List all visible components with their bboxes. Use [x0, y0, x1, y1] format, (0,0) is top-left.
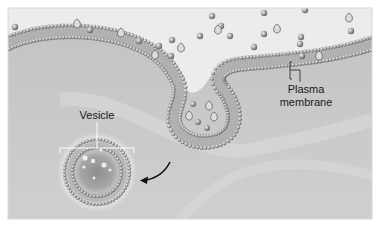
phospholipid-head	[78, 36, 82, 40]
phospholipid-head	[172, 132, 176, 136]
phospholipid-head	[98, 38, 102, 42]
phospholipid-head	[29, 40, 33, 44]
phospholipid-head	[85, 139, 89, 143]
phospholipid-head	[254, 67, 258, 71]
phospholipid-head	[204, 146, 208, 150]
phospholipid-head	[51, 24, 55, 28]
phospholipid-head	[106, 27, 110, 31]
phospholipid-head	[192, 145, 196, 149]
phospholipid-head	[330, 45, 334, 49]
phospholipid-head	[112, 198, 116, 202]
phospholipid-head	[293, 51, 297, 55]
phospholipid-head	[256, 54, 260, 58]
phospholipid-head	[260, 54, 264, 58]
phospholipid-head	[127, 177, 131, 181]
phospholipid-head	[71, 172, 75, 176]
phospholipid-head	[214, 67, 218, 71]
phospholipid-head	[183, 81, 187, 85]
phospholipid-head	[166, 120, 170, 124]
plasma-membrane-label-line2: membrane	[280, 96, 333, 108]
phospholipid-head	[336, 57, 340, 61]
phospholipid-head	[174, 135, 178, 139]
solute-molecule	[297, 41, 303, 47]
phospholipid-head	[211, 72, 215, 76]
phospholipid-head	[117, 42, 121, 46]
phospholipid-head	[118, 160, 122, 164]
vesicle-cargo-molecule	[91, 159, 95, 163]
endocytosis-diagram: Plasma membrane Vesicle	[0, 0, 380, 226]
phospholipid-head	[71, 165, 75, 169]
phospholipid-head	[79, 142, 83, 146]
solute-molecule	[348, 28, 354, 34]
phospholipid-head	[55, 36, 59, 40]
phospholipid-head	[93, 195, 97, 199]
phospholipid-head	[95, 203, 99, 207]
phospholipid-head	[101, 38, 105, 42]
pit-solute-molecule	[190, 101, 196, 107]
phospholipid-head	[247, 67, 251, 71]
phospholipid-head	[68, 35, 72, 39]
phospholipid-head	[283, 52, 287, 56]
phospholipid-head	[33, 27, 37, 31]
phospholipid-head	[88, 138, 92, 142]
phospholipid-head	[82, 24, 86, 28]
phospholipid-head	[238, 122, 242, 126]
phospholipid-head	[235, 98, 239, 102]
phospholipid-head	[350, 41, 354, 45]
phospholipid-head	[211, 82, 215, 86]
droplet-molecule	[118, 28, 125, 37]
phospholipid-head	[251, 67, 255, 71]
phospholipid-head	[169, 101, 173, 105]
pit-solute-molecule	[204, 125, 210, 131]
phospholipid-head	[93, 25, 97, 29]
phospholipid-head	[291, 63, 295, 67]
pit-droplet-molecule	[206, 101, 213, 110]
phospholipid-head	[271, 65, 275, 69]
solute-molecule	[87, 27, 93, 33]
phospholipid-head	[353, 40, 357, 44]
phospholipid-head	[125, 157, 129, 161]
phospholipid-head	[226, 139, 230, 143]
phospholipid-head	[184, 90, 188, 94]
vesicle-cargo-molecule	[101, 162, 106, 167]
phospholipid-head	[363, 50, 367, 54]
phospholipid-head	[303, 50, 307, 54]
phospholipid-head	[217, 64, 221, 68]
phospholipid-head	[236, 56, 240, 60]
phospholipid-head	[127, 163, 131, 167]
phospholipid-head	[177, 138, 181, 142]
phospholipid-head	[176, 68, 180, 72]
phospholipid-head	[270, 53, 274, 57]
phospholipid-head	[327, 46, 331, 50]
phospholipid-head	[44, 25, 48, 29]
phospholipid-head	[236, 126, 240, 130]
solute-molecule	[156, 43, 162, 49]
phospholipid-head	[35, 38, 39, 42]
phospholipid-head	[342, 55, 346, 59]
droplet-molecule	[178, 43, 185, 52]
phospholipid-head	[99, 203, 103, 207]
phospholipid-head	[352, 53, 356, 57]
phospholipid-head	[238, 117, 242, 121]
vesicle-cargo-molecule	[82, 165, 85, 168]
phospholipid-head	[224, 59, 228, 63]
phospholipid-head	[82, 141, 86, 145]
phospholipid-head	[45, 37, 49, 41]
phospholipid-head	[16, 31, 20, 35]
phospholipid-head	[128, 174, 132, 178]
phospholipid-head	[323, 47, 327, 51]
phospholipid-head	[3, 36, 7, 40]
droplet-molecule	[346, 13, 353, 22]
phospholipid-head	[261, 66, 265, 70]
pit-droplet-molecule	[186, 111, 193, 120]
phospholipid-head	[102, 138, 106, 142]
phospholipid-head	[63, 167, 67, 171]
phospholipid-head	[264, 66, 268, 70]
phospholipid-head	[268, 66, 272, 70]
phospholipid-head	[147, 40, 151, 44]
vesicle-cargo-molecule	[93, 177, 96, 180]
phospholipid-head	[42, 37, 46, 41]
phospholipid-head	[0, 38, 3, 42]
phospholipid-head	[280, 52, 284, 56]
phospholipid-head	[134, 35, 138, 39]
